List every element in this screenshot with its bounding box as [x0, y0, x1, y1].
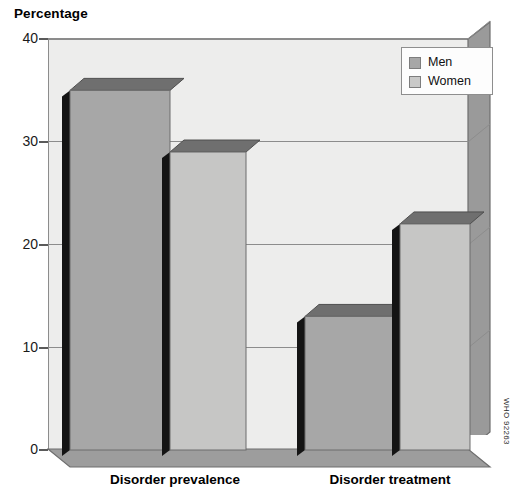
bar-front-face: [70, 90, 170, 450]
legend-item-men: Men: [409, 53, 492, 72]
category-label-disorder-treatment: Disorder treatment: [300, 472, 480, 487]
bar-side-shadow: [392, 224, 400, 456]
women-swatch-icon: [409, 76, 421, 88]
legend-item-women: Women: [409, 72, 492, 91]
bar-women-0: [162, 140, 260, 456]
bar-top-face: [400, 212, 484, 224]
bar-chart: Percentage 40 30 20 10 0: [0, 0, 526, 502]
category-label-disorder-prevalence: Disorder prevalence: [85, 472, 265, 487]
legend-label-women: Women: [428, 75, 471, 88]
bar-top-face: [170, 140, 260, 152]
bar-front-face: [305, 316, 400, 450]
bar-side-shadow: [297, 316, 305, 456]
bar-top-face: [70, 78, 184, 90]
legend: Men Women: [401, 47, 493, 95]
who-credit-label: WHO 92263: [500, 398, 511, 458]
bar-front-face: [400, 224, 470, 450]
men-swatch-icon: [409, 57, 421, 69]
bar-side-shadow: [62, 90, 70, 456]
bar-front-face: [170, 152, 246, 450]
bar-side-shadow: [162, 152, 170, 456]
legend-label-men: Men: [428, 56, 452, 69]
bar-women-1: [392, 212, 484, 456]
